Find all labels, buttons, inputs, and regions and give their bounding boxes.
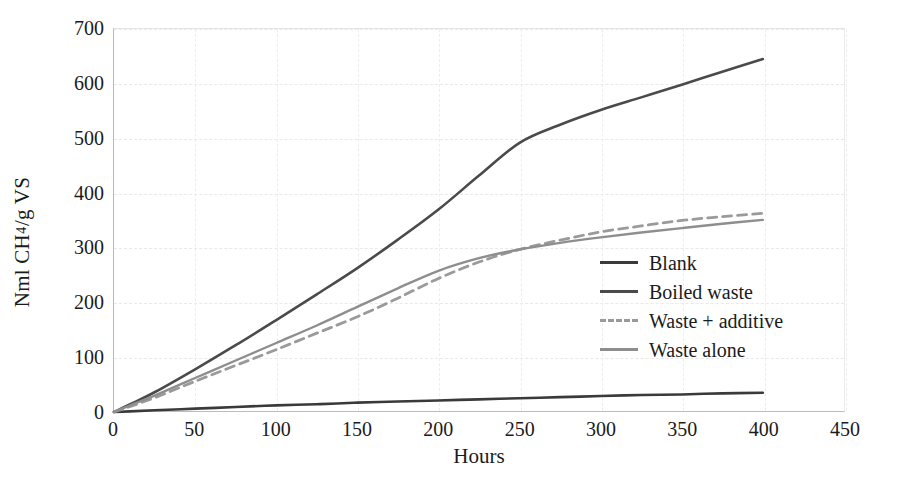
legend-item-label: Waste + additive	[649, 311, 783, 331]
chart-legend: BlankBoiled wasteWaste + additiveWaste a…	[600, 248, 850, 364]
legend-line-icon	[600, 314, 638, 328]
y-axis-tick-labels: 0100200300400500600700	[38, 28, 104, 412]
y-tick-label: 300	[44, 237, 104, 257]
x-tick-label: 350	[647, 419, 717, 439]
legend-line-icon	[600, 256, 638, 270]
y-tick-label: 500	[44, 128, 104, 148]
legend-item-label: Waste alone	[649, 340, 746, 360]
legend-item[interactable]: Boiled waste	[600, 277, 850, 306]
y-tick-label: 400	[44, 183, 104, 203]
y-tick-label: 200	[44, 292, 104, 312]
legend-item[interactable]: Waste + additive	[600, 306, 850, 335]
x-axis-title: Hours	[113, 444, 845, 469]
x-tick-label: 0	[78, 419, 148, 439]
y-tick-label: 100	[44, 347, 104, 367]
y-axis-title-post: /g VS	[10, 177, 35, 226]
x-tick-label: 250	[485, 419, 555, 439]
y-axis-title-subscript: 4	[14, 226, 30, 234]
legend-item[interactable]: Blank	[600, 248, 850, 277]
legend-item-label: Boiled waste	[649, 282, 753, 302]
legend-item[interactable]: Waste alone	[600, 335, 850, 364]
x-tick-label: 450	[810, 419, 880, 439]
y-tick-label: 600	[44, 73, 104, 93]
y-axis-title-pre: Nml CH	[10, 234, 35, 307]
x-tick-label: 400	[729, 419, 799, 439]
legend-item-label: Blank	[649, 253, 697, 273]
legend-line-icon	[600, 285, 638, 299]
x-tick-label: 200	[403, 419, 473, 439]
x-tick-label: 300	[566, 419, 636, 439]
x-tick-label: 50	[159, 419, 229, 439]
y-tick-label: 700	[44, 18, 104, 38]
x-tick-label: 100	[241, 419, 311, 439]
x-tick-label: 150	[322, 419, 392, 439]
series-line	[114, 393, 763, 412]
methane-yield-chart: Nml CH4/g VS 0100200300400500600700 0501…	[0, 0, 898, 484]
legend-line-icon	[600, 343, 638, 357]
x-axis-tick-labels: 050100150200250300350400450	[113, 419, 873, 445]
